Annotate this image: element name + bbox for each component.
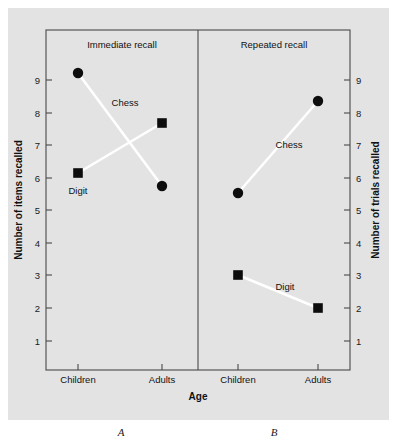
panel-a-digit-label: Digit bbox=[68, 185, 87, 196]
y-left-tick-4: 4 bbox=[35, 238, 40, 249]
x-label-b-adults: Adults bbox=[305, 374, 332, 385]
chart-svg: 1 2 3 4 5 6 7 8 9 1 2 3 4 5 bbox=[8, 8, 389, 420]
y-left-tick-1: 1 bbox=[35, 336, 40, 347]
y-left-tick-8: 8 bbox=[35, 108, 40, 119]
y-left-tick-3: 3 bbox=[35, 270, 40, 281]
y-right-tick-6: 6 bbox=[356, 173, 361, 184]
panel-a-chess-point-children bbox=[73, 68, 83, 78]
y-left-tick-9: 9 bbox=[35, 75, 40, 86]
panel-a-chess-label: Chess bbox=[112, 97, 139, 108]
figure-panel: 1 2 3 4 5 6 7 8 9 1 2 3 4 5 bbox=[8, 8, 389, 420]
x-label-b-children: Children bbox=[220, 374, 255, 385]
y-axis-right-title: Number of trials recalled bbox=[370, 141, 381, 258]
y-right-tick-4: 4 bbox=[356, 238, 361, 249]
panel-b-series-chess: Chess bbox=[233, 96, 323, 198]
y-axis-left-labels: 1 2 3 4 5 6 7 8 9 bbox=[35, 75, 40, 347]
panel-a-digit-point-children bbox=[73, 168, 83, 178]
panel-a-title: Immediate recall bbox=[87, 39, 157, 50]
x-label-a-children: Children bbox=[60, 374, 95, 385]
panel-b-series-digit: Digit bbox=[233, 270, 323, 313]
y-left-tick-2: 2 bbox=[35, 303, 40, 314]
y-right-tick-3: 3 bbox=[356, 270, 361, 281]
y-axis-left-title: Number of items recalled bbox=[13, 140, 24, 259]
x-axis-labels: Children Adults Children Adults bbox=[60, 374, 331, 385]
panel-b-digit-point-adults bbox=[313, 303, 323, 313]
y-right-tick-8: 8 bbox=[356, 108, 361, 119]
y-axis-left-ticks bbox=[46, 80, 52, 341]
y-left-tick-6: 6 bbox=[35, 173, 40, 184]
panel-b-chess-point-adults bbox=[313, 96, 323, 106]
y-axis-right-ticks bbox=[344, 80, 350, 341]
caption-panel-b: B bbox=[254, 426, 294, 438]
caption-panel-a: A bbox=[101, 426, 141, 438]
y-axis-right-labels: 1 2 3 4 5 6 7 8 9 bbox=[356, 75, 361, 347]
y-right-tick-1: 1 bbox=[356, 336, 361, 347]
panel-a-digit-point-adults bbox=[157, 118, 167, 128]
panel-a-series-digit: Digit bbox=[68, 118, 166, 196]
panel-b-title: Repeated recall bbox=[241, 39, 308, 50]
y-right-tick-9: 9 bbox=[356, 75, 361, 86]
y-right-tick-5: 5 bbox=[356, 205, 361, 216]
x-axis-title: Age bbox=[189, 391, 208, 402]
y-right-tick-7: 7 bbox=[356, 140, 361, 151]
y-left-tick-5: 5 bbox=[35, 205, 40, 216]
x-label-a-adults: Adults bbox=[149, 374, 176, 385]
panel-a-chess-point-adults bbox=[157, 181, 167, 191]
panel-b-digit-point-children bbox=[233, 270, 243, 280]
panel-b-digit-label: Digit bbox=[275, 281, 294, 292]
panel-b-chess-point-children bbox=[233, 188, 243, 198]
panel-b-chess-label: Chess bbox=[276, 139, 303, 150]
y-right-tick-2: 2 bbox=[356, 303, 361, 314]
y-left-tick-7: 7 bbox=[35, 140, 40, 151]
